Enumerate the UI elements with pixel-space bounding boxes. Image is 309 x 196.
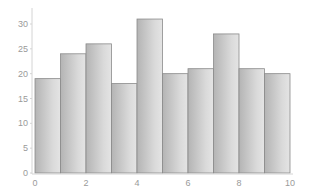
histogram-chart: 051015202530 0246810: [0, 0, 309, 196]
x-tick-label: 4: [134, 178, 139, 188]
histogram-bar: [61, 54, 87, 173]
y-tick-label: 15: [18, 94, 28, 104]
histogram-bar: [239, 69, 265, 173]
y-tick-label: 30: [18, 19, 28, 29]
y-axis-ticks: 051015202530: [18, 19, 32, 178]
x-tick-label: 2: [83, 178, 88, 188]
y-tick-label: 25: [18, 44, 28, 54]
histogram-bar: [86, 44, 112, 173]
histogram-bar: [112, 84, 138, 173]
histogram-bar: [137, 19, 163, 173]
histogram-bar: [35, 79, 61, 173]
histogram-bar: [188, 69, 214, 173]
histogram-bar: [214, 34, 240, 173]
x-tick-label: 6: [185, 178, 190, 188]
x-tick-label: 0: [32, 178, 37, 188]
y-tick-label: 0: [23, 168, 28, 178]
x-axis-ticks: 0246810: [32, 178, 295, 188]
histogram-bar: [163, 74, 189, 173]
x-tick-label: 8: [236, 178, 241, 188]
x-tick-label: 10: [285, 178, 295, 188]
histogram-bar: [265, 74, 291, 173]
y-tick-label: 10: [18, 118, 28, 128]
y-tick-label: 5: [23, 143, 28, 153]
y-tick-label: 20: [18, 69, 28, 79]
bars-group: [35, 19, 290, 173]
